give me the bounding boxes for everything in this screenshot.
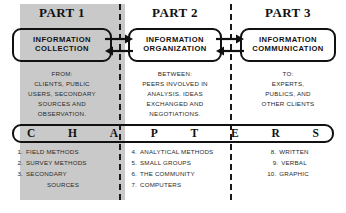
chapter-number: 7. bbox=[128, 180, 137, 191]
chapter-number: 10. bbox=[267, 169, 276, 180]
part-1-desc-line-4: SOURCES AND bbox=[8, 99, 116, 109]
part-3-chapter-list: 8.WRITTEN 9.VERBAL 10.GRAPHIC bbox=[234, 147, 342, 180]
part-1-desc-line-3: USERS, SECONDARY bbox=[8, 89, 116, 99]
chapter-item: 9.VERBAL bbox=[234, 158, 342, 169]
part-3-desc-line-2: EXPERTS, bbox=[236, 79, 340, 89]
part-1-heading: PART 1 bbox=[6, 5, 118, 21]
part-2-info-box: INFORMATION ORGANIZATION bbox=[128, 28, 222, 62]
chapter-title: VERBAL bbox=[281, 159, 307, 166]
chapter-title: THE COMMUNITY bbox=[140, 170, 195, 177]
chapter-item: 5.SMALL GROUPS bbox=[128, 158, 234, 169]
part-3-description: TO: EXPERTS, PUBLICS, AND OTHER CLIENTS bbox=[236, 69, 340, 109]
connector-organization-communication bbox=[215, 30, 245, 60]
chapters-banner-letters: C H A P T E R S bbox=[14, 128, 332, 140]
chapter-number: 5. bbox=[128, 158, 137, 169]
chapter-title: SMALL GROUPS bbox=[140, 159, 191, 166]
chapter-item: 10.GRAPHIC bbox=[234, 169, 342, 180]
part-2-desc-line-3: ANALYSIS. IDEAS bbox=[124, 89, 226, 99]
banner-letter: P bbox=[151, 128, 158, 140]
banner-letter: S bbox=[313, 128, 319, 140]
banner-letter: C bbox=[27, 128, 35, 140]
banner-letter: H bbox=[68, 128, 77, 140]
part-3-box-line-2: COMMUNICATION bbox=[252, 45, 324, 54]
bidirectional-arrow-icon bbox=[215, 30, 245, 60]
part-1-desc-line-5: OBSERVATION. bbox=[8, 109, 116, 119]
chapter-title: SURVEY METHODS bbox=[26, 159, 87, 166]
chapter-number: 8. bbox=[267, 147, 276, 158]
part-1-description: FROM: CLIENTS, PUBLIC USERS, SECONDARY S… bbox=[8, 69, 116, 119]
banner-letter: R bbox=[271, 128, 279, 140]
chapter-item: 2.SURVEY METHODS bbox=[14, 158, 126, 169]
chapters-banner: C H A P T E R S bbox=[12, 124, 334, 143]
part-2-chapter-list: 4.ANALYTICAL METHODS 5.SMALL GROUPS 6.TH… bbox=[122, 147, 234, 190]
chapter-number: 3. bbox=[14, 169, 23, 180]
chapter-title: FIELD METHODS bbox=[26, 148, 79, 155]
chapter-item: 1.FIELD METHODS bbox=[14, 147, 126, 158]
chapter-item: 3.SECONDARY bbox=[14, 169, 126, 180]
part-3-info-box: INFORMATION COMMUNICATION bbox=[240, 28, 336, 62]
chapter-item: 6.THE COMMUNITY bbox=[128, 169, 234, 180]
chapter-title: SECONDARY bbox=[26, 170, 67, 177]
part-1-chapter-list: 1.FIELD METHODS 2.SURVEY METHODS 3.SECON… bbox=[6, 147, 126, 190]
part-2-box-line-2: ORGANIZATION bbox=[143, 45, 206, 54]
part-2-description: BETWEEN: PEERS INVOLVED IN ANALYSIS. IDE… bbox=[124, 69, 226, 119]
part-2-desc-line-5: NEGOTIATIONS. bbox=[124, 109, 226, 119]
chapter-number: 1. bbox=[14, 147, 23, 158]
chapter-title: WRITTEN bbox=[279, 148, 309, 155]
column-part-2: PART 2 INFORMATION ORGANIZATION BETWEEN:… bbox=[122, 0, 228, 213]
chapter-number: 9. bbox=[269, 158, 278, 169]
chapter-title: GRAPHIC bbox=[279, 170, 309, 177]
banner-letter: T bbox=[191, 128, 199, 140]
chapter-item: 4.ANALYTICAL METHODS bbox=[128, 147, 234, 158]
part-3-desc-line-4: OTHER CLIENTS bbox=[236, 99, 340, 109]
connector-collection-organization bbox=[104, 30, 134, 60]
chapter-number: 6. bbox=[128, 169, 137, 180]
part-2-desc-line-2: PEERS INVOLVED IN bbox=[124, 79, 226, 89]
part-1-info-box: INFORMATION COLLECTION bbox=[12, 28, 112, 62]
part-3-heading: PART 3 bbox=[234, 5, 342, 21]
chapter-number: 2. bbox=[14, 158, 23, 169]
chapter-title: COMPUTERS bbox=[140, 181, 181, 188]
column-part-3: PART 3 INFORMATION COMMUNICATION TO: EXP… bbox=[234, 0, 342, 213]
chapter-title: ANALYTICAL METHODS bbox=[140, 148, 213, 155]
bidirectional-arrow-icon bbox=[104, 30, 134, 60]
part-1-box-line-2: COLLECTION bbox=[35, 45, 89, 54]
part-2-heading: PART 2 bbox=[122, 5, 228, 21]
part-2-desc-line-1: BETWEEN: bbox=[124, 69, 226, 79]
column-part-1: PART 1 INFORMATION COLLECTION FROM: CLIE… bbox=[6, 0, 118, 213]
banner-letter: E bbox=[231, 128, 239, 140]
chapter-item: 8.WRITTEN bbox=[234, 147, 342, 158]
part-1-desc-line-1: FROM: bbox=[8, 69, 116, 79]
chapter-item: SOURCES bbox=[14, 180, 126, 191]
chapter-title: SOURCES bbox=[47, 181, 79, 188]
banner-letter: A bbox=[110, 128, 118, 140]
part-2-desc-line-4: EXCHANGED AND bbox=[124, 99, 226, 109]
process-diagram: PART 1 INFORMATION COLLECTION FROM: CLIE… bbox=[0, 0, 346, 213]
chapter-number: 4. bbox=[128, 147, 137, 158]
chapter-item: 7.COMPUTERS bbox=[128, 180, 234, 191]
part-1-desc-line-2: CLIENTS, PUBLIC bbox=[8, 79, 116, 89]
part-3-desc-line-1: TO: bbox=[236, 69, 340, 79]
part-3-desc-line-3: PUBLICS, AND bbox=[236, 89, 340, 99]
